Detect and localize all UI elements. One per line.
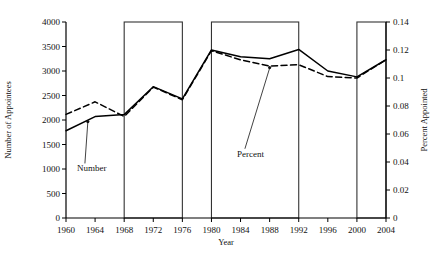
- x-tick-label: 2000: [348, 225, 367, 235]
- chart-background: [0, 0, 435, 263]
- x-tick-label: 1992: [290, 225, 308, 235]
- x-tick-label: 2004: [377, 225, 396, 235]
- y-tick-label-left: 500: [47, 189, 61, 199]
- x-tick-label: 1964: [86, 225, 105, 235]
- y-tick-label-left: 0: [56, 213, 61, 223]
- y-tick-label-left: 4000: [42, 17, 61, 27]
- x-tick-label: 1996: [319, 225, 338, 235]
- y-tick-label-right: 0.06: [393, 129, 409, 139]
- x-axis-title: Year: [218, 237, 234, 247]
- y-tick-label-right: 0.14: [393, 17, 409, 27]
- y-axis-title-left: Number of Appointees: [3, 81, 13, 158]
- annotation-dot: [268, 66, 271, 69]
- chart-container: 0500100015002000250030003500400000.020.0…: [0, 0, 435, 263]
- y-tick-label-left: 2000: [42, 115, 61, 125]
- x-tick-label: 1976: [173, 225, 192, 235]
- x-tick-label: 1968: [115, 225, 134, 235]
- y-tick-label-left: 2500: [42, 91, 61, 101]
- y-tick-label-right: 0: [393, 213, 398, 223]
- y-tick-label-left: 3000: [42, 66, 61, 76]
- y-tick-label-left: 1500: [42, 140, 61, 150]
- annotation-label-percent: Percent: [237, 149, 264, 159]
- x-tick-label: 1972: [144, 225, 162, 235]
- y-tick-label-left: 1000: [42, 164, 61, 174]
- x-tick-label: 1960: [57, 225, 76, 235]
- y-tick-label-right: 0.08: [393, 101, 409, 111]
- y-tick-label-right: 0.12: [393, 45, 409, 55]
- y-tick-label-left: 3500: [42, 42, 61, 52]
- y-tick-label-right: 0.1: [393, 73, 404, 83]
- x-tick-label: 1988: [261, 225, 280, 235]
- chart-canvas: 0500100015002000250030003500400000.020.0…: [0, 0, 435, 263]
- x-tick-label: 1984: [232, 225, 251, 235]
- annotation-dot: [86, 120, 89, 123]
- annotation-label-number: Number: [77, 163, 107, 173]
- y-axis-title-right: Percent Appointed: [419, 88, 429, 152]
- y-tick-label-right: 0.04: [393, 157, 409, 167]
- x-tick-label: 1980: [202, 225, 221, 235]
- y-tick-label-right: 0.02: [393, 185, 409, 195]
